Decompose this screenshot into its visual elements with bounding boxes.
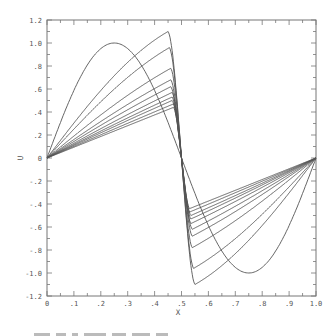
y-tick-label: -.8	[29, 247, 42, 255]
x-tick-label: .7	[231, 300, 239, 308]
data-curves	[47, 32, 316, 285]
x-tick-label: .1	[70, 300, 78, 308]
curve-curve-10	[47, 107, 316, 208]
x-tick-label: .5	[177, 300, 185, 308]
x-tick-label: .8	[258, 300, 266, 308]
y-tick-label: .2	[34, 132, 42, 140]
y-tick-labels: 1.21.0.8.6.4.20-.2-.4-.6-.8-1.0-1.2	[25, 17, 42, 301]
y-tick-label: .4	[34, 109, 42, 117]
x-axis-label: X	[176, 308, 181, 317]
y-tick-label: -.2	[29, 178, 42, 186]
y-axis-label: U	[16, 156, 25, 161]
x-tick-label: .3	[123, 300, 131, 308]
y-tick-label: -.6	[29, 224, 42, 232]
y-tick-label: -1.2	[25, 293, 42, 301]
y-tick-label: 0	[38, 155, 42, 163]
y-tick-label: -.4	[29, 201, 42, 209]
x-tick-label: .6	[204, 300, 212, 308]
y-tick-label: .6	[34, 86, 42, 94]
x-tick-label: 1.0	[310, 300, 323, 308]
cropped-caption	[34, 330, 184, 336]
x-tick-label: .2	[97, 300, 105, 308]
y-tick-label: 1.2	[29, 17, 42, 25]
x-tick-label: .4	[150, 300, 158, 308]
y-tick-label: -1.0	[25, 270, 42, 278]
x-tick-label: 0	[45, 300, 49, 308]
x-tick-labels: 0.1.2.3.4.5.6.7.8.91.0	[45, 300, 322, 308]
y-tick-label: 1.0	[29, 40, 42, 48]
chart: 0.1.2.3.4.5.6.7.8.91.0 1.21.0.8.6.4.20-.…	[0, 0, 336, 336]
y-tick-label: .8	[34, 63, 42, 71]
x-tick-label: .9	[285, 300, 293, 308]
